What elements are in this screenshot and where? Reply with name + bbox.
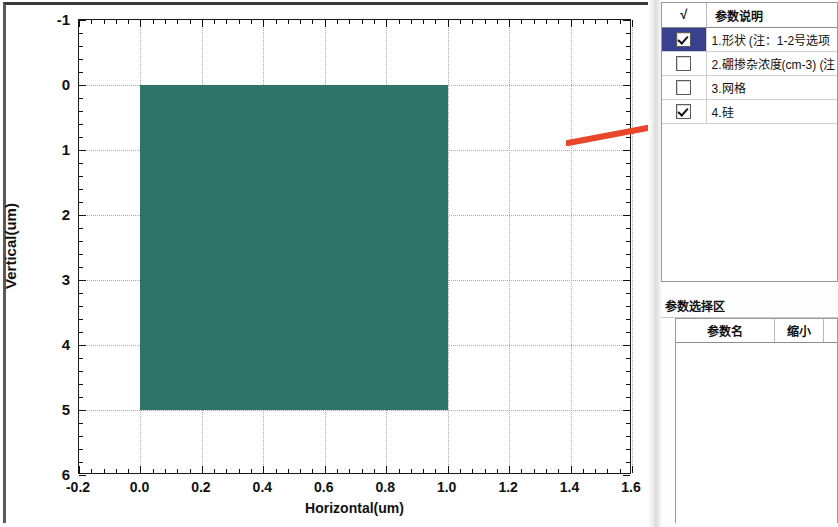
x-axis-minor-tick xyxy=(583,20,584,24)
y-axis-tick-label: 0 xyxy=(24,76,70,93)
y-axis-tick-label: 5 xyxy=(24,401,70,418)
y-axis-minor-tick xyxy=(626,254,630,255)
x-axis-minor-tick xyxy=(91,469,92,473)
x-axis-minor-tick xyxy=(497,20,498,24)
y-axis-minor-tick xyxy=(79,33,83,34)
x-axis-tick xyxy=(263,20,264,27)
x-axis-minor-tick xyxy=(165,469,166,473)
x-axis-minor-tick xyxy=(337,20,338,24)
y-axis-minor-tick xyxy=(79,371,83,372)
x-axis-tick xyxy=(509,466,510,473)
parameter-select-grid[interactable]: 参数名 缩小 xyxy=(675,318,838,523)
row-checkbox-cell[interactable] xyxy=(662,28,706,52)
x-axis-tick xyxy=(571,466,572,473)
x-axis-tick xyxy=(202,466,203,473)
x-axis-minor-tick xyxy=(362,20,363,24)
y-axis-minor-tick xyxy=(79,358,83,359)
parameter-select-body[interactable] xyxy=(676,343,837,523)
chart-canvas[interactable]: -0.20.00.20.40.60.81.01.21.41.6 -1012345… xyxy=(6,5,648,523)
y-axis-minor-tick xyxy=(79,267,83,268)
row-label[interactable]: 2.硼掺杂浓度(cm-3) (注 xyxy=(706,52,837,76)
x-axis-minor-tick xyxy=(239,20,240,24)
y-axis-tick xyxy=(79,85,86,86)
x-axis-tick-label: 0.6 xyxy=(314,479,333,495)
y-axis-minor-tick xyxy=(626,436,630,437)
extra-column-header[interactable] xyxy=(824,319,837,342)
row-checkbox-cell[interactable] xyxy=(662,76,706,100)
check-column-header[interactable]: √ xyxy=(662,3,706,28)
silicon-region xyxy=(140,85,447,410)
x-axis-minor-tick xyxy=(214,469,215,473)
y-axis-minor-tick xyxy=(79,293,83,294)
x-axis-minor-tick xyxy=(374,469,375,473)
x-axis-minor-tick xyxy=(239,469,240,473)
y-axis-minor-tick xyxy=(79,423,83,424)
y-axis-tick-label: 6 xyxy=(24,466,70,483)
checkbox-unchecked-icon[interactable] xyxy=(676,56,691,71)
x-axis-minor-tick xyxy=(620,469,621,473)
checkbox-checked-icon[interactable] xyxy=(676,32,691,47)
x-axis-tick xyxy=(79,466,80,473)
chart-panel: -0.20.00.20.40.60.81.01.21.41.6 -1012345… xyxy=(3,2,648,523)
x-axis-minor-tick xyxy=(411,469,412,473)
x-axis-tick xyxy=(140,466,141,473)
table-row[interactable]: 2.硼掺杂浓度(cm-3) (注 xyxy=(662,52,837,76)
param-name-column-header[interactable]: 参数名 xyxy=(676,319,775,342)
x-axis-minor-tick xyxy=(521,469,522,473)
table-row[interactable]: 3.网格 xyxy=(662,76,837,100)
y-axis-title: Vertical(um) xyxy=(2,203,19,289)
table-row[interactable]: 1.形状 (注：1-2号选项 xyxy=(662,28,837,52)
plot-area[interactable] xyxy=(78,19,631,474)
y-axis-tick xyxy=(623,280,630,281)
row-label[interactable]: 3.网格 xyxy=(706,76,837,100)
x-axis-minor-tick xyxy=(558,20,559,24)
y-axis-minor-tick xyxy=(626,384,630,385)
y-axis-tick xyxy=(79,20,86,21)
x-axis-tick xyxy=(448,20,449,27)
x-axis-minor-tick xyxy=(177,20,178,24)
x-axis-minor-tick xyxy=(251,469,252,473)
row-label[interactable]: 4.硅 xyxy=(706,100,837,124)
y-axis-tick-label: 3 xyxy=(24,271,70,288)
row-checkbox-cell[interactable] xyxy=(662,100,706,124)
x-axis-minor-tick xyxy=(546,20,547,24)
y-axis-minor-tick xyxy=(79,306,83,307)
panel-splitter[interactable] xyxy=(648,0,661,527)
x-axis-tick xyxy=(263,466,264,473)
x-axis-minor-tick xyxy=(276,20,277,24)
row-checkbox-cell[interactable] xyxy=(662,52,706,76)
y-axis-minor-tick xyxy=(626,137,630,138)
y-axis-minor-tick xyxy=(79,98,83,99)
y-axis-tick xyxy=(623,410,630,411)
x-axis-minor-tick xyxy=(583,469,584,473)
y-axis-minor-tick xyxy=(79,189,83,190)
y-axis-tick-label: -1 xyxy=(24,11,70,28)
x-axis-minor-tick xyxy=(399,469,400,473)
x-axis-tick-label: 0.0 xyxy=(130,479,149,495)
y-axis-minor-tick xyxy=(626,358,630,359)
checkbox-checked-icon[interactable] xyxy=(676,104,691,119)
y-axis-minor-tick xyxy=(79,176,83,177)
checkbox-unchecked-icon[interactable] xyxy=(676,80,691,95)
row-label[interactable]: 1.形状 (注：1-2号选项 xyxy=(706,28,837,52)
y-axis-minor-tick xyxy=(626,111,630,112)
x-axis-minor-tick xyxy=(472,469,473,473)
table-row[interactable]: 4.硅 xyxy=(662,100,837,124)
shrink-column-header[interactable]: 缩小 xyxy=(775,319,824,342)
y-axis-minor-tick xyxy=(626,72,630,73)
x-axis-tick xyxy=(448,466,449,473)
parameter-description-panel[interactable]: √ 参数说明 1.形状 (注：1-2号选项2.硼掺杂浓度(cm-3) (注3.网… xyxy=(661,2,838,282)
y-axis-minor-tick xyxy=(626,202,630,203)
x-axis-minor-tick xyxy=(595,469,596,473)
x-axis-minor-tick xyxy=(165,20,166,24)
y-axis-tick xyxy=(623,475,630,476)
x-axis-minor-tick xyxy=(337,469,338,473)
x-axis-minor-tick xyxy=(288,469,289,473)
x-axis-minor-tick xyxy=(116,20,117,24)
description-column-header[interactable]: 参数说明 xyxy=(706,3,837,28)
x-axis-tick-label: 0.8 xyxy=(375,479,394,495)
y-axis-minor-tick xyxy=(79,137,83,138)
gridline-vertical xyxy=(509,20,510,473)
x-axis-minor-tick xyxy=(300,469,301,473)
x-axis-tick xyxy=(202,20,203,27)
